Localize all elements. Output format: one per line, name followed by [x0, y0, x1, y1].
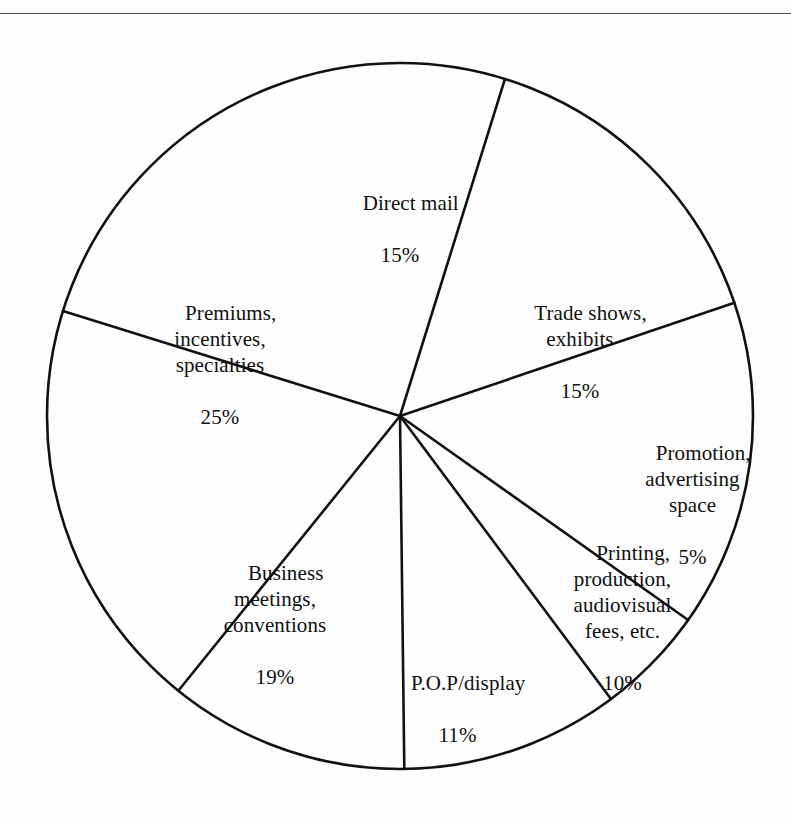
slice-percent-pop-display: 11% [370, 722, 545, 748]
slice-label-premiums-incentives: Premiums, incentives, specialties 25% [130, 274, 310, 482]
slice-label-printing-production: Printing, production, audiovisual fees, … [540, 514, 705, 748]
slice-percent-trade-shows: 15% [500, 378, 660, 404]
slice-label-pop-display: P.O.P/display 11% [370, 644, 545, 800]
slice-percent-direct-mail: 15% [315, 242, 485, 268]
slice-percent-premiums: 25% [130, 404, 310, 430]
slice-name-printing: Printing, production, audiovisual fees, … [574, 541, 672, 643]
slice-name-pop-display: P.O.P/display [411, 671, 526, 695]
slice-name-direct-mail: Direct mail [363, 191, 459, 215]
slice-name-trade-shows: Trade shows, exhibits [534, 301, 646, 351]
slice-label-business-meetings: Business meetings, conventions 19% [185, 534, 365, 742]
slice-name-premiums: Premiums, incentives, specialties [174, 301, 276, 377]
slice-name-promotion: Promotion, advertising space [645, 441, 750, 517]
slice-name-business-meetings: Business meetings, conventions [224, 561, 327, 637]
slice-label-direct-mail: Direct mail 15% [315, 164, 485, 320]
page-canvas: Direct mail 15% Trade shows, exhibits 15… [0, 0, 791, 818]
slice-percent-business-meetings: 19% [185, 664, 365, 690]
slice-percent-printing: 10% [540, 670, 705, 696]
